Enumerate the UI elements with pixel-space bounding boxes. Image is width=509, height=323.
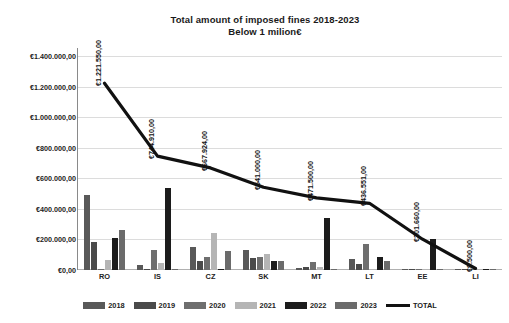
bar-2020-ee	[416, 269, 422, 270]
bar-groups	[78, 56, 502, 270]
legend-item-2019[interactable]: 2019	[134, 301, 175, 310]
bar-2019-ro	[91, 242, 97, 270]
total-data-label: €541.000,00	[253, 150, 262, 190]
bar-group	[131, 56, 184, 270]
total-data-label: €9.500,00	[465, 240, 474, 272]
bar-group	[449, 56, 502, 270]
bar-2021-sk	[264, 254, 270, 271]
bar-2018-li	[455, 269, 461, 270]
bar-2021-is	[158, 263, 164, 270]
legend-swatch-icon	[235, 302, 257, 309]
legend-label: 2018	[108, 301, 124, 310]
chart-subtitle: Below 1 milion€	[120, 26, 410, 38]
bar-2020-cz	[204, 257, 210, 270]
chart-legend: 201820192020202120222023TOTAL	[60, 298, 460, 312]
bar-2018-ee	[402, 269, 408, 270]
bar-2023-ro	[119, 230, 125, 271]
bar-2019-mt	[303, 267, 309, 270]
bar-2023-mt	[331, 269, 337, 270]
chart-title: Total amount of imposed fines 2018-2023	[120, 14, 410, 26]
x-label-is: IS	[131, 272, 184, 281]
legend-label: 2020	[209, 301, 225, 310]
x-label-sk: SK	[237, 272, 290, 281]
legend-swatch-icon	[386, 304, 410, 307]
legend-swatch-icon	[335, 302, 357, 309]
legend-label: 2019	[159, 301, 175, 310]
bar-group	[237, 56, 290, 270]
bar-2022-mt	[324, 218, 330, 270]
bar-group	[78, 56, 131, 270]
bar-group	[343, 56, 396, 270]
bar-2022-ro	[112, 238, 118, 270]
bar-2018-is	[137, 265, 143, 270]
x-label-li: LI	[449, 272, 502, 281]
bar-2022-ee	[430, 239, 436, 270]
bar-2023-is	[172, 269, 178, 270]
total-data-label: €744.910,00	[147, 119, 156, 159]
y-tick-label: €800.000,00	[2, 143, 76, 152]
legend-item-2023[interactable]: 2023	[335, 301, 376, 310]
bar-2021-cz	[211, 233, 217, 270]
bar-group	[184, 56, 237, 270]
y-tick-label: €1.200.000,00	[2, 82, 76, 91]
y-axis-tick-labels: €1.400.000,00€1.200.000,00€1.000.000,00€…	[0, 0, 76, 323]
bar-2018-sk	[243, 250, 249, 270]
bar-2022-is	[165, 188, 171, 270]
bar-2020-sk	[257, 257, 263, 270]
legend-label: 2022	[310, 301, 326, 310]
bar-2023-lt	[384, 261, 390, 270]
y-tick-label: €1.400.000,00	[2, 52, 76, 61]
x-label-ee: EE	[396, 272, 449, 281]
legend-swatch-icon	[285, 302, 307, 309]
total-data-label: €436.551,00	[359, 166, 368, 206]
bar-group	[396, 56, 449, 270]
chart-container: Total amount of imposed fines 2018-2023 …	[0, 0, 509, 323]
bar-2020-is	[151, 250, 157, 270]
bar-2019-lt	[356, 264, 362, 270]
bar-2022-lt	[377, 257, 383, 270]
total-data-label: €1.221.550,00	[94, 40, 103, 86]
bar-2021-ee	[423, 269, 429, 270]
total-data-label: €471.500,00	[306, 161, 315, 201]
chart-title-block: Total amount of imposed fines 2018-2023 …	[120, 14, 410, 38]
legend-swatch-icon	[134, 302, 156, 309]
bar-2018-mt	[296, 268, 302, 270]
y-tick-label: €1.000.000,00	[2, 113, 76, 122]
y-tick-label: €400.000,00	[2, 204, 76, 213]
bar-2020-lt	[363, 244, 369, 270]
bar-2023-sk	[278, 261, 284, 270]
legend-item-2018[interactable]: 2018	[83, 301, 124, 310]
legend-label: 2023	[360, 301, 376, 310]
legend-item-2020[interactable]: 2020	[184, 301, 225, 310]
bar-2022-sk	[271, 261, 277, 270]
bar-2020-mt	[310, 262, 316, 270]
y-tick-label: €0,00	[2, 266, 76, 275]
bar-2018-ro	[84, 195, 90, 270]
bar-group	[290, 56, 343, 270]
legend-item-total[interactable]: TOTAL	[386, 301, 437, 310]
legend-item-2021[interactable]: 2021	[235, 301, 276, 310]
bar-2023-cz	[225, 251, 231, 270]
bar-2020-ro	[98, 269, 104, 270]
x-axis-category-labels: ROISCZSKMTLTEELI	[78, 272, 502, 281]
x-label-mt: MT	[290, 272, 343, 281]
legend-item-2022[interactable]: 2022	[285, 301, 326, 310]
bar-2023-ee	[437, 269, 443, 270]
bar-2022-li	[483, 269, 489, 270]
bar-2021-lt	[370, 269, 376, 270]
bar-2021-ro	[105, 260, 111, 270]
bar-2022-cz	[218, 269, 224, 270]
x-label-ro: RO	[78, 272, 131, 281]
y-tick-label: €200.000,00	[2, 235, 76, 244]
bar-2019-is	[144, 269, 150, 270]
bar-2019-ee	[409, 269, 415, 270]
bar-2018-lt	[349, 259, 355, 270]
bar-2019-cz	[197, 261, 203, 270]
legend-label: 2021	[260, 301, 276, 310]
legend-swatch-icon	[83, 302, 105, 309]
total-data-label: €201.660,00	[412, 202, 421, 242]
bar-2023-li	[490, 269, 496, 270]
x-label-cz: CZ	[184, 272, 237, 281]
y-tick-label: €600.000,00	[2, 174, 76, 183]
bar-2021-li	[476, 269, 482, 270]
